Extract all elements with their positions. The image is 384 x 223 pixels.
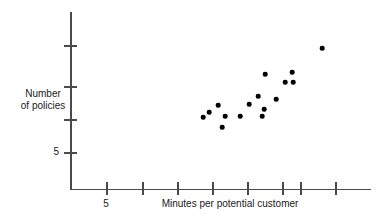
y-axis-title-line-1: Number [16,88,70,100]
y-axis-tick [64,45,77,47]
data-point [223,114,228,119]
y-axis-tick-label-5: 5 [47,146,59,157]
x-axis-tick [177,182,179,195]
y-axis-title: Number of policies [16,88,70,112]
y-axis-tick [64,119,77,121]
x-axis-tick [212,182,214,195]
data-point [262,107,267,112]
data-point [201,115,206,120]
data-point [290,70,295,75]
data-point [260,114,265,119]
data-point [220,125,225,130]
data-point [291,80,296,85]
y-axis-line [70,12,72,190]
data-point [247,102,252,107]
x-axis-tick-label-5: 5 [100,198,112,209]
x-axis-tick [282,182,284,195]
data-point [320,46,325,51]
x-axis-line [70,189,371,191]
x-axis-tick [142,182,144,195]
scatter-plot-figure: 5 5 Number of policies Minutes per poten… [0,0,384,223]
data-point [263,72,268,77]
data-point [283,80,288,85]
data-point [216,103,221,108]
y-axis-tick [64,152,77,154]
data-point [238,114,243,119]
x-axis-tick [300,182,302,195]
x-axis-tick [335,182,337,195]
x-axis-tick [247,182,249,195]
data-point [207,110,212,115]
y-axis-title-line-2: of policies [16,100,70,112]
x-axis-title: Minutes per potential customer [130,198,330,210]
data-point [274,97,279,102]
x-axis-tick [106,182,108,195]
data-point [256,94,261,99]
